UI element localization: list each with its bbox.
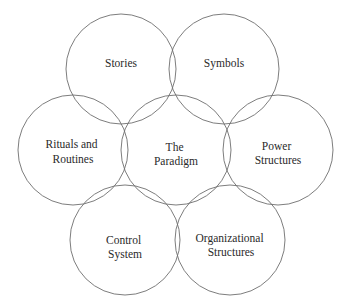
circle-stories [66, 14, 176, 124]
label-symbols: Symbols [204, 57, 245, 70]
label-organizational-structures: Organizational Structures [196, 232, 267, 258]
labels-layer: Stories Symbols Rituals and Routines The… [46, 57, 302, 261]
circle-symbols [169, 14, 279, 124]
cultural-web-diagram: Stories Symbols Rituals and Routines The… [0, 0, 351, 307]
circle-rituals-and-routines [18, 95, 128, 205]
label-control-system: Control System [106, 234, 144, 261]
label-stories: Stories [105, 57, 137, 69]
label-power-structures: Power Structures [255, 140, 302, 166]
label-the-paradigm: The Paradigm [154, 141, 198, 168]
label-rituals-and-routines: Rituals and Routines [46, 138, 101, 165]
